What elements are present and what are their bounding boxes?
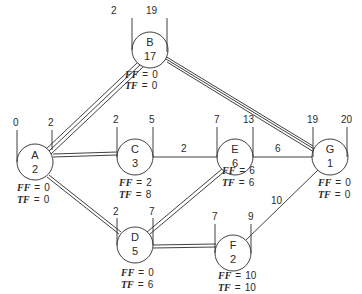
node-c-ff: 2 xyxy=(146,177,152,188)
node-a-duration: 2 xyxy=(32,163,38,175)
node-g-es: 19 xyxy=(307,114,319,125)
svg-text:TF=6: TF=6 xyxy=(121,279,154,290)
network-diagram: 2 6 10 A 2 0 2 FF=0 TF=0 B 17 2 19 FF=0 … xyxy=(0,0,362,294)
node-f-es: 7 xyxy=(212,211,218,222)
svg-text:FF=0: FF=0 xyxy=(317,177,351,188)
node-b-ff: 0 xyxy=(152,69,158,80)
node-a-id: A xyxy=(31,149,39,161)
svg-text:TF=0: TF=0 xyxy=(17,194,50,205)
node-c-id: C xyxy=(131,143,139,155)
node-d-es: 2 xyxy=(113,206,119,217)
svg-text:FF=10: FF=10 xyxy=(217,270,257,281)
node-e-lf: 13 xyxy=(243,114,255,125)
node-d-lf: 7 xyxy=(149,206,155,217)
node-c-es: 2 xyxy=(113,114,119,125)
node-a-ff: 0 xyxy=(44,182,50,193)
svg-text:TF=6: TF=6 xyxy=(222,177,255,188)
node-c-tf: 8 xyxy=(146,189,152,200)
edge-label-c-e: 2 xyxy=(181,143,187,154)
node-d-ff: 0 xyxy=(148,267,154,278)
node-a-tf: 0 xyxy=(44,194,50,205)
node-d-duration: 5 xyxy=(132,245,138,257)
edge-label-e-g: 6 xyxy=(275,143,281,154)
edge-d-f xyxy=(153,244,216,248)
node-b-es: 2 xyxy=(111,5,117,16)
node-b-id: B xyxy=(146,36,153,48)
svg-text:TF=0: TF=0 xyxy=(125,80,158,91)
svg-text:TF=10: TF=10 xyxy=(218,282,256,293)
edge-a-d xyxy=(47,175,121,234)
node-g-id: G xyxy=(326,143,335,155)
node-d-id: D xyxy=(131,231,139,243)
node-a-es: 0 xyxy=(13,117,19,128)
edge-b-g xyxy=(165,56,314,152)
svg-text:TF=0: TF=0 xyxy=(318,189,351,200)
node-b-tf: 0 xyxy=(152,80,158,91)
node-g-tf: 0 xyxy=(345,189,351,200)
node-g-duration: 1 xyxy=(327,157,333,169)
node-g-lf: 20 xyxy=(341,114,353,125)
node-b-duration: 17 xyxy=(144,50,156,62)
node-c-duration: 3 xyxy=(132,157,138,169)
node-f-duration: 2 xyxy=(230,253,236,265)
svg-text:FF=0: FF=0 xyxy=(124,69,158,80)
node-f-ff: 10 xyxy=(245,270,257,281)
svg-text:TF=8: TF=8 xyxy=(119,189,152,200)
node-e-id: E xyxy=(231,143,238,155)
edge-a-c xyxy=(53,152,117,157)
node-f-lf: 9 xyxy=(248,211,254,222)
edge-d-e xyxy=(147,169,225,234)
edge-label-f-g: 10 xyxy=(271,195,283,206)
node-d-tf: 6 xyxy=(148,279,154,290)
node-f-id: F xyxy=(230,239,237,251)
svg-text:FF=0: FF=0 xyxy=(16,182,50,193)
node-b-lf: 19 xyxy=(146,5,158,16)
node-f-tf: 10 xyxy=(245,282,257,293)
node-a-lf: 2 xyxy=(48,117,54,128)
node-g-ff: 0 xyxy=(345,177,351,188)
node-e-ff: 6 xyxy=(249,165,255,176)
node-e-es: 7 xyxy=(214,114,220,125)
svg-text:FF=2: FF=2 xyxy=(118,177,152,188)
svg-text:FF=0: FF=0 xyxy=(120,267,154,278)
node-c-lf: 5 xyxy=(149,114,155,125)
node-e-tf: 6 xyxy=(249,177,255,188)
